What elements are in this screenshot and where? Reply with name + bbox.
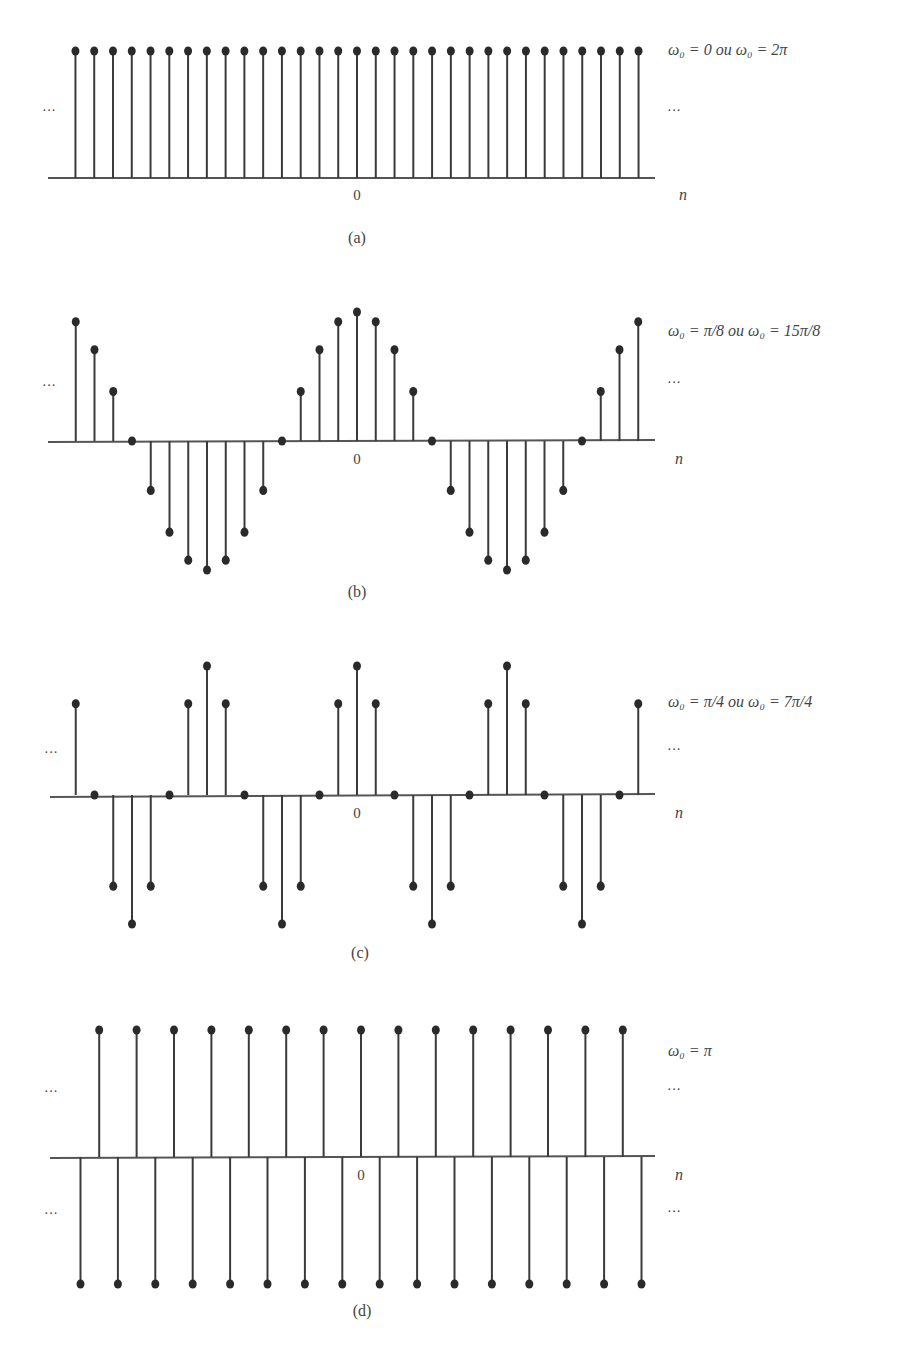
- stem-marker: [581, 1025, 589, 1034]
- ellipsis-left: ···: [42, 378, 56, 393]
- stem-marker: [447, 882, 455, 891]
- stem-marker: [133, 1025, 141, 1034]
- panel-a: ··· ··· 0 n ω₀ = 0 ou ω₀ = 2π (a): [42, 41, 788, 247]
- frequency-formula: ω₀ = π/8 ou ω₀ = 15π/8: [668, 322, 820, 339]
- ellipsis-right: ···: [667, 742, 681, 757]
- stem-marker: [391, 345, 399, 354]
- stem-marker: [222, 46, 230, 55]
- stem-marker: [466, 46, 474, 55]
- stem-marker: [578, 436, 586, 445]
- stem-marker: [391, 46, 399, 55]
- stem-marker: [503, 46, 511, 55]
- stem-marker: [600, 1279, 608, 1288]
- stem-marker: [466, 790, 474, 799]
- stem-marker: [372, 317, 380, 326]
- axis-label-n: n: [675, 450, 683, 467]
- x-axis: [50, 1156, 655, 1158]
- stem-marker: [282, 1025, 290, 1034]
- origin-label: 0: [353, 187, 361, 203]
- stem-marker: [616, 790, 624, 799]
- stem-marker: [114, 1279, 122, 1288]
- stem-marker: [559, 882, 567, 891]
- stem-marker: [357, 1025, 365, 1034]
- stem-marker: [259, 46, 267, 55]
- ellipsis-right: ···: [667, 103, 681, 118]
- stem-marker: [315, 46, 323, 55]
- stem-marker: [334, 317, 342, 326]
- ellipsis-left: ···: [44, 745, 58, 760]
- stem-marker: [278, 436, 286, 445]
- stem-marker: [451, 1279, 459, 1288]
- stem-marker: [522, 46, 530, 55]
- stem-marker: [372, 699, 380, 708]
- ellipsis-right-upper: ···: [667, 1082, 681, 1097]
- origin-label: 0: [353, 451, 361, 467]
- stem-marker: [597, 882, 605, 891]
- stem-marker: [634, 699, 642, 708]
- stem-marker: [297, 46, 305, 55]
- stem-marker: [394, 1025, 402, 1034]
- stem-marker: [544, 1025, 552, 1034]
- stem-marker: [578, 919, 586, 928]
- stem-marker: [413, 1279, 421, 1288]
- stem-marker: [447, 486, 455, 495]
- stem-marker: [297, 387, 305, 396]
- stem-marker: [278, 919, 286, 928]
- stem-marker: [320, 1025, 328, 1034]
- ellipsis-left-upper: ···: [44, 1084, 58, 1099]
- stem-marker: [334, 46, 342, 55]
- stem-marker: [184, 556, 192, 565]
- stem-marker: [245, 1025, 253, 1034]
- stem-marker: [503, 565, 511, 574]
- stem-marker: [484, 556, 492, 565]
- panel-b: ··· ··· 0 n ω₀ = π/8 ou ω₀ = 15π/8 (b): [42, 307, 820, 601]
- stem-marker: [222, 556, 230, 565]
- panel-c: ··· ··· 0 n ω₀ = π/4 ou ω₀ = 7π/4 (c): [44, 661, 812, 962]
- stem-marker: [264, 1279, 272, 1288]
- stem-marker: [541, 790, 549, 799]
- frequency-formula: ω₀ = 0 ou ω₀ = 2π: [668, 41, 788, 58]
- stem-marker: [72, 699, 80, 708]
- stem-marker: [597, 46, 605, 55]
- stem-marker: [334, 699, 342, 708]
- panel-caption: (c): [351, 944, 369, 962]
- stem-marker: [484, 46, 492, 55]
- stem-marker: [147, 486, 155, 495]
- stem-marker: [391, 790, 399, 799]
- stem-marker: [203, 661, 211, 670]
- panel-d: ··· ··· ··· ··· 0 n ω₀ = π (d): [44, 1025, 713, 1320]
- stem-marker: [207, 1025, 215, 1034]
- axis-label-n: n: [675, 1166, 683, 1183]
- stem-marker: [484, 699, 492, 708]
- stem-marker: [409, 46, 417, 55]
- stem-marker: [559, 486, 567, 495]
- stem-marker: [301, 1279, 309, 1288]
- stem-marker: [128, 46, 136, 55]
- ellipsis-right: ···: [667, 375, 681, 390]
- stem-marker: [372, 46, 380, 55]
- stem-marker: [297, 882, 305, 891]
- stem-marker: [541, 528, 549, 537]
- stem-marker: [638, 1279, 646, 1288]
- axis-label-n: n: [675, 804, 683, 821]
- stem-marker: [77, 1279, 85, 1288]
- stem-marker: [166, 790, 174, 799]
- stem-marker: [525, 1279, 533, 1288]
- stem-series: [71, 46, 642, 178]
- stem-marker: [203, 46, 211, 55]
- stem-marker: [165, 46, 173, 55]
- stem-marker: [226, 1279, 234, 1288]
- stem-marker: [428, 919, 436, 928]
- ellipsis-left-lower: ···: [44, 1206, 58, 1221]
- stem-marker: [432, 1025, 440, 1034]
- stem-marker: [409, 882, 417, 891]
- stem-marker: [338, 1279, 346, 1288]
- stem-marker: [353, 307, 361, 316]
- frequency-formula: ω₀ = π/4 ou ω₀ = 7π/4: [668, 693, 812, 710]
- origin-label: 0: [353, 805, 361, 821]
- stem-marker: [90, 46, 98, 55]
- stem-marker: [166, 528, 174, 537]
- stem-marker: [109, 387, 117, 396]
- figure-canvas: ··· ··· 0 n ω₀ = 0 ou ω₀ = 2π (a) ··· ··…: [0, 0, 906, 1353]
- stem-marker: [72, 317, 80, 326]
